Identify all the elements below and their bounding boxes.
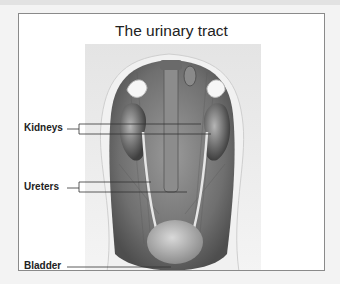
ureters-label: Ureters	[24, 181, 59, 192]
kidneys-label: Kidneys	[24, 122, 63, 133]
top-band	[0, 0, 340, 5]
bladder-label: Bladder	[24, 260, 61, 271]
diagram-frame: The urinary tract	[18, 13, 325, 271]
urinary-tract-illustration	[19, 14, 325, 271]
